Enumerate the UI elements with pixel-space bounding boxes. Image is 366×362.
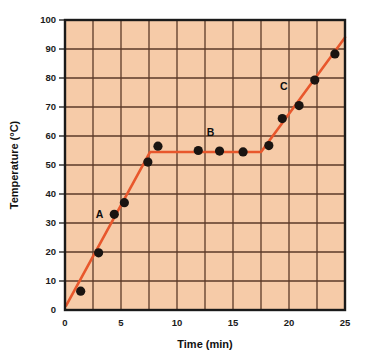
- data-point-marker: [143, 158, 152, 167]
- y-tick-label: 30: [45, 217, 56, 228]
- y-tick-label: 0: [51, 304, 56, 315]
- chart-canvas: ABC 0102030405060708090100 0510152025 Ti…: [0, 0, 366, 362]
- y-tick-label: 60: [45, 130, 56, 141]
- y-tick-label: 40: [45, 188, 56, 199]
- x-tick-label: 5: [118, 317, 124, 328]
- y-tick-label: 70: [45, 101, 56, 112]
- data-point-marker: [120, 198, 129, 207]
- x-tick-label: 10: [172, 317, 183, 328]
- x-tick-label: 15: [228, 317, 239, 328]
- data-point-marker: [215, 146, 224, 155]
- y-tick-label: 10: [45, 275, 56, 286]
- data-point-marker: [310, 75, 319, 84]
- data-point-marker: [110, 210, 119, 219]
- y-axis-title: Temperature (°C): [8, 120, 20, 209]
- data-point-marker: [153, 142, 162, 151]
- data-point-marker: [294, 101, 303, 110]
- data-point-marker: [76, 287, 85, 296]
- y-tick-label: 80: [45, 72, 56, 83]
- x-tick-label: 25: [340, 317, 351, 328]
- x-tick-label: 0: [62, 317, 67, 328]
- y-tick-label: 20: [45, 246, 56, 257]
- y-tick-label: 100: [40, 14, 56, 25]
- y-tick-label: 90: [45, 43, 56, 54]
- point-label-c: C: [280, 80, 288, 92]
- data-point-marker: [278, 114, 287, 123]
- data-point-marker: [238, 147, 247, 156]
- data-point-marker: [264, 141, 273, 150]
- y-tick-label: 50: [45, 159, 56, 170]
- heating-curve-chart: ABC 0102030405060708090100 0510152025 Ti…: [0, 0, 366, 362]
- x-axis-title: Time (min): [177, 338, 233, 350]
- data-point-marker: [94, 248, 103, 257]
- point-label-a: A: [96, 208, 104, 220]
- point-label-b: B: [207, 126, 215, 138]
- data-point-marker: [194, 146, 203, 155]
- data-point-marker: [330, 49, 339, 58]
- x-tick-label: 20: [284, 317, 295, 328]
